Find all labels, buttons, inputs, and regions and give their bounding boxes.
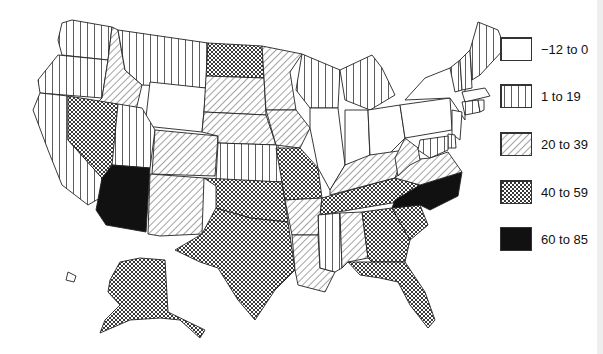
state-nm xyxy=(148,174,204,236)
state-wa xyxy=(58,20,112,60)
state-wy xyxy=(145,82,206,132)
state-sd xyxy=(204,76,266,115)
legend-item-c0: −12 to 0 xyxy=(500,36,588,62)
state-hi xyxy=(66,272,76,282)
state-co xyxy=(152,130,218,176)
legend-swatch-solid-black-icon xyxy=(500,227,532,251)
legend-label: 1 to 19 xyxy=(541,89,581,104)
state-ks xyxy=(216,143,282,182)
legend-label: −12 to 0 xyxy=(541,42,588,57)
legend-label: 60 to 85 xyxy=(541,232,588,247)
state-nd xyxy=(206,43,264,78)
legend-swatch-blank-icon xyxy=(500,37,532,61)
state-mi xyxy=(340,55,395,110)
state-wi xyxy=(296,54,340,108)
legend-swatch-vertical-lines-icon xyxy=(500,84,532,108)
legend-item-c3: 40 to 59 xyxy=(500,179,588,205)
legend-swatch-diagonal-lines-icon xyxy=(500,132,532,156)
state-ak xyxy=(100,258,205,338)
legend-item-c4: 60 to 85 xyxy=(500,226,588,252)
state-fl xyxy=(348,262,435,328)
state-or xyxy=(38,55,108,98)
state-az xyxy=(96,165,150,232)
state-ms xyxy=(318,213,342,272)
page-edge-shadow xyxy=(597,0,603,354)
legend-item-c2: 20 to 39 xyxy=(500,131,588,157)
legend-item-c1: 1 to 19 xyxy=(500,83,581,109)
state-mn xyxy=(262,46,302,110)
state-pa xyxy=(400,98,452,138)
legend-swatch-crosshatch-icon xyxy=(500,180,532,204)
state-de xyxy=(448,134,456,148)
legend-label: 20 to 39 xyxy=(541,137,588,152)
state-ct xyxy=(462,100,480,115)
legend-label: 40 to 59 xyxy=(541,185,588,200)
state-ar xyxy=(285,198,322,235)
